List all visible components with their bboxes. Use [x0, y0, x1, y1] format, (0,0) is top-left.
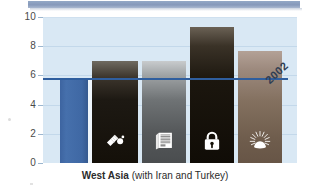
bar-fill	[190, 27, 234, 163]
y-axis-label-2: 2	[8, 129, 36, 139]
y-axis-label-4: 4	[8, 100, 36, 110]
bar-fill	[60, 78, 88, 163]
y-axis-labels: 10 8 6 4 2 0	[0, 0, 36, 189]
scan-speckle-1	[8, 118, 11, 121]
gridline-10	[43, 17, 297, 18]
bar-baseline[interactable]	[60, 78, 88, 163]
y-axis-label-8: 8	[8, 41, 36, 51]
y-axis-label-6: 6	[8, 70, 36, 80]
caption-detail: (with Iran and Turkey)	[132, 170, 229, 181]
axis-tick-8	[38, 46, 43, 47]
reference-line-2002	[43, 78, 288, 80]
axis-tick-6	[38, 75, 43, 76]
chart-caption: West Asia (with Iran and Turkey)	[0, 170, 310, 181]
bar-fill	[142, 61, 186, 163]
bar-document[interactable]	[142, 61, 186, 163]
bar-satellite-dish[interactable]	[92, 61, 138, 163]
y-axis-label-10: 10	[8, 12, 36, 22]
caption-region: West Asia	[82, 170, 129, 181]
bar-fill	[92, 61, 138, 163]
y-axis-label-0: 0	[8, 158, 36, 168]
axis-tick-10	[38, 17, 43, 18]
scan-speckle-2	[30, 183, 33, 185]
axis-tick-2	[38, 134, 43, 135]
axis-tick-0	[38, 163, 43, 164]
gridline-8	[43, 46, 297, 47]
axis-tick-4	[38, 105, 43, 106]
bar-padlock[interactable]	[190, 27, 234, 163]
bar-chart: 10 8 6 4 2 0	[0, 0, 310, 189]
